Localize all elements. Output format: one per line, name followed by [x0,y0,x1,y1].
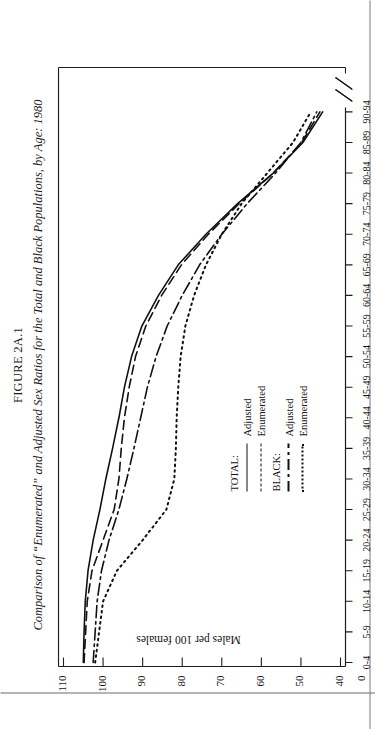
legend-swatch-dashed [260,443,261,491]
legend-swatch-solid [246,443,247,491]
legend-swatch-dashdot [287,443,289,491]
legend: TOTAL:AdjustedEnumeratedBLACK:AdjustedEn… [225,385,309,491]
scanned-page: FIGURE 2A.1 Comparison of “Enumerated” a… [0,0,375,729]
plot-canvas [57,35,352,667]
page-content: FIGURE 2A.1 Comparison of “Enumerated” a… [0,0,375,729]
y-axis-title: Males per 100 females [108,633,268,645]
y-tick-label: 50 [292,675,304,701]
x-axis-break [335,89,352,101]
x-tick-marks [335,77,352,662]
legend-item-label: Enumerated [297,385,308,436]
y-tick-label: 80 [174,675,186,701]
y-tick-marks [63,657,340,666]
legend-item-label: Adjusted [241,398,252,436]
figure-number: FIGURE 2A.1 [10,0,25,729]
legend-swatch-dotted [301,443,303,491]
y-tick-label: 40 [332,675,344,701]
legend-item: Enumerated [253,385,267,491]
y-tick-label: 100 [95,675,107,701]
chart: Males per 100 females AGE 40506070809010… [57,35,352,667]
figure-caption: Comparison of “Enumerated” and Adjusted … [30,0,45,729]
x-tick-label: 90-94 [360,89,371,133]
y-tick-label: 90 [134,675,146,701]
legend-group-title: TOTAL: [228,385,239,491]
legend-item: Adjusted [281,385,295,491]
legend-item-label: Adjusted [283,398,294,436]
legend-item-label: Enumerated [255,385,266,436]
legend-group-title: BLACK: [270,385,281,491]
y-tick-label: 110 [55,675,67,701]
x-axis-break [335,77,352,89]
axis-break-y [335,67,352,101]
y-tick-label: 60 [253,675,265,701]
y-tick-label: 70 [213,675,225,701]
legend-item: Adjusted [239,385,253,491]
legend-item: Enumerated [295,385,309,491]
